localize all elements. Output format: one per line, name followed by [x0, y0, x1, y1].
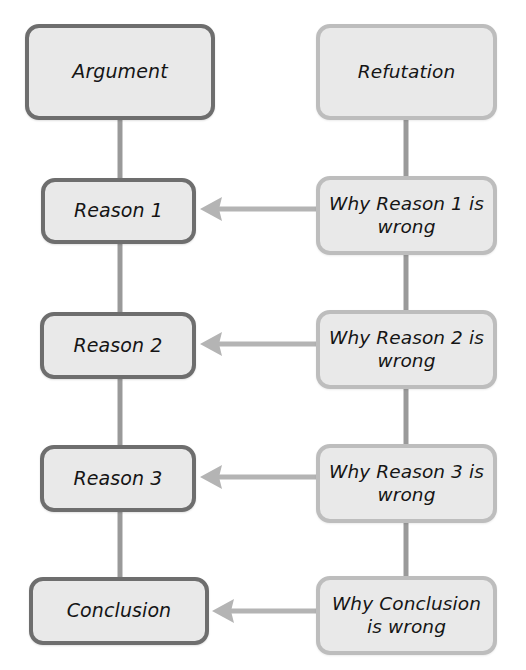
node-why-reason-3-wrong[interactable]: Why Reason 3 is wrong: [316, 444, 497, 523]
argument-refutation-diagram: Argument Reason 1 Reason 2 Reason 3 Conc…: [0, 0, 526, 670]
node-reason-3[interactable]: Reason 3: [40, 445, 196, 512]
node-argument[interactable]: Argument: [25, 24, 215, 120]
node-refutation-label: Refutation: [352, 61, 462, 84]
node-reason-2-label: Reason 2: [67, 334, 168, 357]
node-reason-3-label: Reason 3: [67, 467, 168, 490]
node-reason-1-label: Reason 1: [68, 199, 169, 222]
arrow-why-conclusion-to-conclusion: [212, 599, 316, 623]
node-conclusion[interactable]: Conclusion: [29, 577, 209, 645]
node-why-reason-1-wrong[interactable]: Why Reason 1 is wrong: [316, 176, 497, 255]
node-refutation[interactable]: Refutation: [316, 24, 497, 120]
arrow-why-reason1-to-reason1: [200, 197, 316, 221]
node-why-conclusion-wrong[interactable]: Why Conclusion is wrong: [316, 576, 497, 655]
node-reason-1[interactable]: Reason 1: [41, 178, 196, 244]
node-conclusion-label: Conclusion: [61, 599, 178, 622]
node-why-reason-3-wrong-label: Why Reason 3 is wrong: [323, 461, 490, 506]
node-why-reason-2-wrong-label: Why Reason 2 is wrong: [323, 327, 490, 372]
node-reason-2[interactable]: Reason 2: [40, 312, 196, 379]
node-why-reason-2-wrong[interactable]: Why Reason 2 is wrong: [316, 310, 497, 389]
arrow-why-reason3-to-reason3: [200, 465, 316, 489]
arrow-why-reason2-to-reason2: [200, 332, 316, 356]
node-argument-label: Argument: [66, 60, 173, 83]
node-why-reason-1-wrong-label: Why Reason 1 is wrong: [323, 193, 490, 238]
node-why-conclusion-wrong-label: Why Conclusion is wrong: [326, 593, 487, 638]
